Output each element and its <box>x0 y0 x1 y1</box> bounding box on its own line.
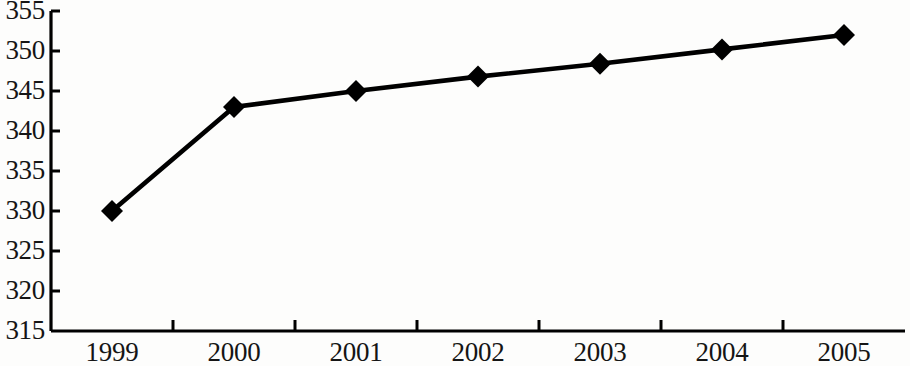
x-axis-tick-label: 2002 <box>416 339 540 366</box>
y-axis-tick-label: 325 <box>0 237 45 264</box>
x-axis-tick-label: 1999 <box>50 339 174 366</box>
y-axis-tick-label: 315 <box>0 317 45 344</box>
chart-axes <box>51 11 905 331</box>
y-axis-tick-label: 345 <box>0 77 45 104</box>
x-axis-tick-label: 2000 <box>172 339 296 366</box>
y-axis-tick-label: 335 <box>0 157 45 184</box>
line-chart: 315320325330335340345350355 199920002001… <box>0 0 910 366</box>
x-axis-tick-label: 2004 <box>660 339 784 366</box>
x-axis-tick-label: 2001 <box>294 339 418 366</box>
data-point-marker <box>711 38 733 60</box>
data-point-marker <box>589 53 611 75</box>
y-axis-tick-label: 340 <box>0 117 45 144</box>
chart-plot-area <box>0 0 910 366</box>
x-axis-tick-label: 2003 <box>538 339 662 366</box>
y-axis-tick-label: 355 <box>0 0 45 24</box>
data-point-marker <box>833 24 855 46</box>
y-axis-tick-label: 350 <box>0 37 45 64</box>
x-axis-ticks <box>173 320 783 331</box>
y-axis-tick-label: 330 <box>0 197 45 224</box>
data-point-marker <box>467 66 489 88</box>
y-axis-tick-label: 320 <box>0 277 45 304</box>
data-point-marker <box>345 80 367 102</box>
x-axis-tick-label: 2005 <box>782 339 906 366</box>
data-series-line <box>112 35 844 211</box>
